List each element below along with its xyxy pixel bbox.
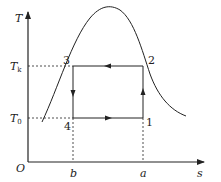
point-4-label: 4 <box>64 120 71 133</box>
arrow-down-icon <box>71 90 76 97</box>
arrow-right-icon <box>105 116 112 121</box>
point-3-label: 3 <box>63 54 70 67</box>
b-label: b <box>70 167 77 180</box>
origin-label: O <box>16 162 25 175</box>
x-axis-label: s <box>197 167 203 180</box>
point-1-label: 1 <box>146 116 153 129</box>
point-2-label: 2 <box>148 54 155 67</box>
arrow-up-icon <box>141 88 146 95</box>
arrow-left-icon <box>104 64 111 69</box>
t-s-diagram: T s O Tk T0 b a 1 2 3 4 <box>0 0 221 182</box>
y-axis-label: T <box>15 12 24 25</box>
t0-label: T0 <box>10 112 22 126</box>
tk-label: Tk <box>10 60 22 74</box>
a-label: a <box>140 167 147 180</box>
